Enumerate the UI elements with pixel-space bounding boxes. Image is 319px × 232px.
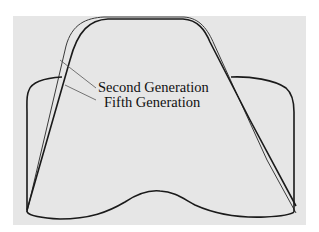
fifth-generation-leader (65, 85, 96, 100)
generation-outline-diagram (0, 0, 319, 232)
base-profile-outline (27, 191, 294, 219)
fifth-generation-label: Fifth Generation (104, 95, 200, 110)
second-generation-label: Second Generation (98, 80, 209, 95)
fifth-generation-outline (27, 19, 296, 210)
second-generation-outline (27, 17, 296, 213)
